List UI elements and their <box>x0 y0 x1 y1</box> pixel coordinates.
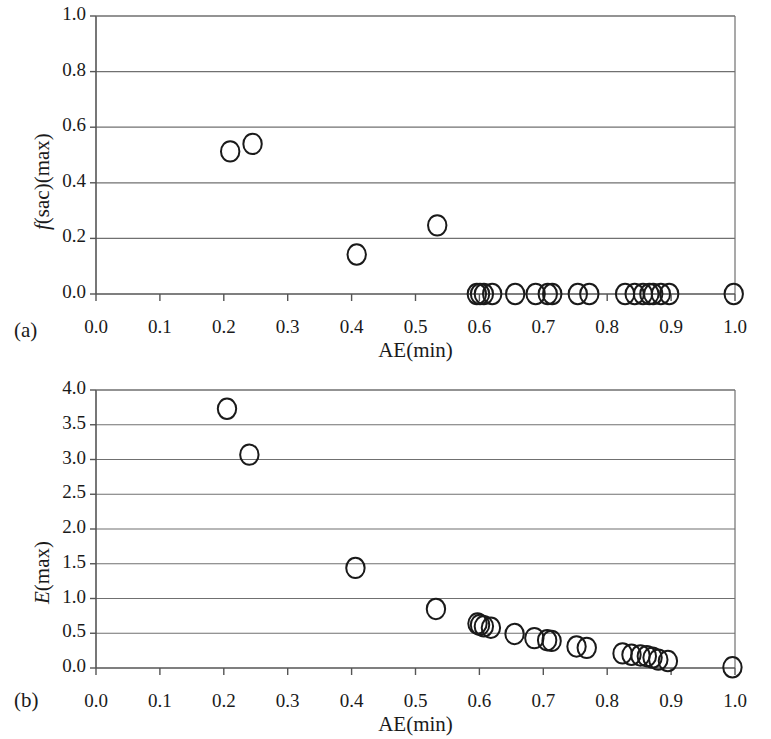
data-point <box>525 628 543 648</box>
y-tick-label: 0.0 <box>30 281 86 303</box>
scatter-plot-a <box>0 0 771 370</box>
panel-a: (a) 0.00.10.20.30.40.50.60.70.80.91.00.0… <box>0 0 771 370</box>
y-tick-label: 3.5 <box>30 412 86 434</box>
data-point <box>243 134 261 154</box>
data-point <box>505 624 523 644</box>
scatter-plot-b <box>0 368 771 739</box>
x-tick-label: 0.1 <box>130 316 190 338</box>
x-tick-label: 0.1 <box>130 690 190 712</box>
data-point <box>240 444 258 464</box>
data-point <box>427 599 445 619</box>
x-axis-title: AE(min) <box>346 338 486 363</box>
panel-a-tag: (a) <box>14 318 37 343</box>
y-axis-title-rest: (max) <box>30 541 54 591</box>
data-point <box>428 215 446 235</box>
y-tick-label: 3.0 <box>30 447 86 469</box>
y-tick-label: 1.0 <box>30 3 86 25</box>
x-tick-label: 0.5 <box>386 690 446 712</box>
y-tick-label: 2.5 <box>30 481 86 503</box>
y-tick-label: 0.5 <box>30 620 86 642</box>
x-tick-label: 0.2 <box>194 690 254 712</box>
x-tick-label: 0.3 <box>258 690 318 712</box>
x-tick-label: 0.2 <box>194 316 254 338</box>
data-point <box>218 399 236 419</box>
x-tick-label: 0.4 <box>322 690 382 712</box>
data-point <box>346 558 364 578</box>
data-point <box>578 638 596 658</box>
x-tick-label: 0.8 <box>577 316 637 338</box>
x-tick-label: 0.4 <box>322 316 382 338</box>
x-tick-label: 0.6 <box>449 690 509 712</box>
x-tick-label: 0.8 <box>577 690 637 712</box>
x-tick-label: 1.0 <box>705 690 765 712</box>
x-tick-label: 0.5 <box>386 316 446 338</box>
panel-b: (b) 0.00.10.20.30.40.50.60.70.80.91.00.0… <box>0 368 771 739</box>
x-axis-title: AE(min) <box>346 712 486 737</box>
data-point <box>221 141 239 161</box>
x-tick-label: 0.0 <box>66 316 126 338</box>
x-tick-label: 0.7 <box>513 316 573 338</box>
y-axis-title: E(max) <box>30 541 55 604</box>
y-tick-label: 2.0 <box>30 516 86 538</box>
y-tick-label: 4.0 <box>30 377 86 399</box>
x-tick-label: 0.7 <box>513 690 573 712</box>
data-point <box>348 244 366 264</box>
panel-b-tag: (b) <box>14 688 39 713</box>
x-tick-label: 1.0 <box>705 316 765 338</box>
x-tick-label: 0.9 <box>641 690 701 712</box>
y-axis-title-symbol: E <box>30 591 54 604</box>
y-tick-label: 0.8 <box>30 59 86 81</box>
y-axis-title-rest: (sac)(max) <box>30 133 54 224</box>
y-axis-title: f(sac)(max) <box>30 133 55 230</box>
figure-container: (a) 0.00.10.20.30.40.50.60.70.80.91.00.0… <box>0 0 771 739</box>
x-tick-label: 0.9 <box>641 316 701 338</box>
y-axis-title-symbol: f <box>30 224 54 230</box>
y-tick-label: 0.0 <box>30 655 86 677</box>
x-tick-label: 0.0 <box>66 690 126 712</box>
x-tick-label: 0.3 <box>258 316 318 338</box>
x-tick-label: 0.6 <box>449 316 509 338</box>
